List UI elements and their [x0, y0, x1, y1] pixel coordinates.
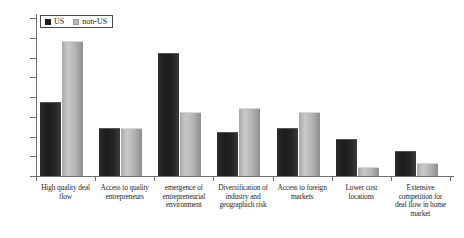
x-axis-tick	[154, 176, 155, 181]
x-axis-category-label: High quality dealflow	[32, 184, 99, 201]
x-axis-tick	[213, 176, 214, 181]
bar-group	[95, 18, 154, 176]
bar-non-us	[62, 41, 83, 176]
x-axis-category-label: emergence ofentrepreneurialenvironment	[150, 184, 217, 210]
bar-non-us	[417, 163, 438, 176]
x-axis-category-label: Access to qualityentrepreneurs	[91, 184, 158, 201]
bar-group	[36, 18, 95, 176]
x-axis-tick	[273, 176, 274, 181]
x-axis-category-label: Access to foreignmarkets	[269, 184, 336, 201]
legend-swatch-non-us-icon	[73, 19, 79, 25]
x-axis-tick	[450, 176, 451, 181]
x-axis-tick	[36, 176, 37, 181]
bar-us	[277, 128, 298, 176]
category-label-line: markets	[269, 193, 336, 202]
category-label-line: flow	[32, 193, 99, 202]
bar-group	[332, 18, 391, 176]
bar-group	[391, 18, 450, 176]
x-axis-tick	[95, 176, 96, 181]
bar-group	[154, 18, 213, 176]
legend-label-non-us: non-US	[82, 17, 107, 26]
bar-non-us	[358, 167, 379, 176]
bar-us	[158, 53, 179, 176]
bar-non-us	[239, 108, 260, 176]
category-label-line: geographich risk	[209, 201, 276, 210]
category-label-line: market	[387, 210, 454, 219]
legend-swatch-us-icon	[45, 19, 51, 25]
bar-us	[99, 128, 120, 176]
chart-legend: US non-US	[40, 15, 113, 28]
legend-item-us: US	[45, 17, 64, 26]
bar-chart: 0%5%10%15%20%25%30%35%40% High quality d…	[0, 0, 464, 238]
bar-us	[336, 139, 357, 176]
plot-area	[36, 18, 450, 176]
bar-us	[395, 151, 416, 176]
bar-non-us	[180, 112, 201, 176]
category-label-line: locations	[328, 193, 395, 202]
bar-non-us	[299, 112, 320, 176]
x-axis-tick	[332, 176, 333, 181]
x-axis-category-label: Diversification ofindustry andgeographic…	[209, 184, 276, 210]
bar-non-us	[121, 128, 142, 176]
bar-group	[273, 18, 332, 176]
bar-us	[217, 132, 238, 176]
bar-group	[213, 18, 272, 176]
legend-item-non-us: non-US	[73, 17, 107, 26]
bar-us	[40, 102, 61, 176]
x-axis-category-label: Lower costlocations	[328, 184, 395, 201]
legend-label-us: US	[54, 17, 64, 26]
category-label-line: environment	[150, 201, 217, 210]
category-label-line: entrepreneurs	[91, 193, 158, 202]
x-axis-category-label: Extensivecompetition fordeal flow in hom…	[387, 184, 454, 218]
x-axis-tick	[391, 176, 392, 181]
